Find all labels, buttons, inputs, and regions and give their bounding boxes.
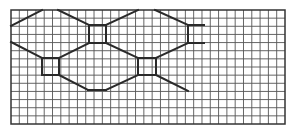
grid-diagram bbox=[0, 0, 297, 131]
path-segment bbox=[155, 10, 188, 25]
grid-lines bbox=[11, 10, 285, 124]
path-segment bbox=[59, 75, 88, 90]
path-segment bbox=[11, 42, 42, 58]
path-segment bbox=[58, 10, 89, 25]
